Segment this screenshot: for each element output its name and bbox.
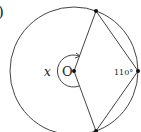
reflex-angle-label: x [44,65,51,79]
inscribed-angle-label: 110° [114,68,133,77]
circle-theorem-diagram: ) O x 110° [0,0,141,132]
radius-to-bottom [74,71,96,131]
chord-top-right [96,11,138,71]
chord-bottom-right [96,71,138,131]
right-point [136,69,140,73]
radius-to-top [74,11,96,71]
center-label: O [62,64,73,79]
part-label: ) [0,3,4,21]
top-point [94,9,98,13]
